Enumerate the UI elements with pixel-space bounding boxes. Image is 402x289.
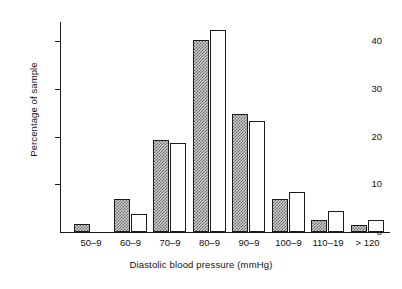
y-axis-tick-label: 10 <box>371 180 382 190</box>
bar-open <box>249 121 265 232</box>
bar-chart-figure: Percentage of sample 010203040 Diastolic… <box>0 0 402 289</box>
x-axis-tick-label: 80–9 <box>199 238 220 248</box>
bar-open <box>210 30 226 232</box>
x-axis-tick-label: > 120 <box>355 238 379 248</box>
plot-area: 010203040 <box>60 22 390 233</box>
bar-shaded <box>153 140 169 232</box>
x-axis-tick-label: 110–19 <box>313 238 344 248</box>
x-axis-tick-label: 70–9 <box>159 238 180 248</box>
bar-open <box>328 211 344 232</box>
y-axis-title: Percentage of sample <box>28 30 39 190</box>
y-axis-tick <box>55 137 60 138</box>
bar-shaded <box>232 114 248 232</box>
y-axis-tick-label: 30 <box>371 84 382 94</box>
x-axis-tick-label: 100–9 <box>275 238 301 248</box>
bar-shaded <box>311 220 327 232</box>
x-axis-line <box>60 232 390 233</box>
x-axis-tick-label: 90–9 <box>238 238 259 248</box>
bar-open <box>170 143 186 232</box>
bar-open <box>131 214 147 232</box>
y-axis-tick-label: 40 <box>371 36 382 46</box>
x-axis-title: Diastolic blood pressure (mmHg) <box>0 259 402 270</box>
bar-shaded <box>351 225 367 232</box>
y-axis-line <box>60 22 61 233</box>
bar-open <box>368 220 384 232</box>
y-axis-tick <box>55 184 60 185</box>
x-axis-tick-label: 60–9 <box>120 238 141 248</box>
x-axis-tick-label: 50–9 <box>80 238 101 248</box>
y-axis-tick-label: 20 <box>371 132 382 142</box>
bar-open <box>289 192 305 232</box>
y-axis-tick <box>55 41 60 42</box>
y-axis-tick <box>55 89 60 90</box>
bar-shaded <box>114 199 130 232</box>
bar-shaded <box>74 224 90 232</box>
bar-shaded <box>272 199 288 232</box>
bar-shaded <box>193 40 209 232</box>
